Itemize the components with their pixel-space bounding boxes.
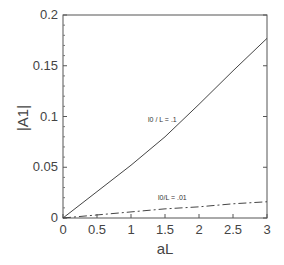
annotation-series-1: l0 / L = .1 (148, 116, 177, 123)
x-tick-label: 0 (59, 222, 66, 237)
chart: 00.050.10.150.2 00.511.522.53 aL |A1| l0… (0, 0, 284, 265)
y-axis-label: |A1| (14, 105, 31, 131)
x-axis: 00.511.522.53 (59, 214, 270, 237)
y-tick-label: 0.2 (40, 7, 58, 22)
annotation-series-2: l0/L = .01 (158, 194, 187, 201)
x-tick-label: 2.5 (224, 222, 242, 237)
x-tick-label: 1.5 (156, 222, 174, 237)
y-tick-label: 0.05 (33, 159, 58, 174)
x-tick-label: 3 (263, 222, 270, 237)
y-tick-label: 0.15 (33, 58, 58, 73)
y-tick-label: 0 (51, 210, 58, 225)
x-tick-label: 0.5 (88, 222, 106, 237)
x-tick-label: 2 (195, 222, 202, 237)
x-axis-label: aL (157, 240, 174, 257)
x-tick-label: 1 (127, 222, 134, 237)
series-lines (63, 38, 267, 218)
y-tick-label: 0.1 (40, 109, 58, 124)
series-line-1 (63, 38, 267, 218)
